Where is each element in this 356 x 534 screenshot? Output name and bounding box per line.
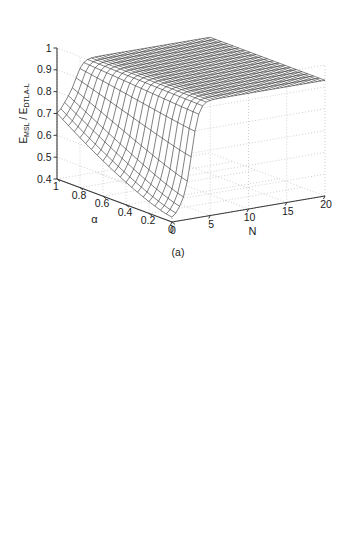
- panel-b: 00.20.40.60.8100.20.40.60.8105101520αNED…: [0, 267, 356, 534]
- surface-plot-a: 0.40.50.60.70.80.9100.20.40.60.810510152…: [0, 0, 356, 267]
- alpha-tick-label: 0.8: [72, 189, 87, 201]
- alpha-tick-label: 0.2: [141, 214, 156, 226]
- n-tick-label: 0: [170, 224, 176, 236]
- grid-line: [210, 153, 325, 196]
- grid-line: [172, 131, 325, 157]
- panel-label: (a): [172, 246, 185, 258]
- alpha-tick-label: 0.4: [118, 206, 133, 218]
- z-tick-label: 0.8: [37, 85, 52, 97]
- z-tick-label: 0.4: [37, 173, 52, 185]
- z-tick-label: 0.7: [37, 107, 52, 119]
- z-tick-label: 0.5: [37, 151, 52, 163]
- n-axis-label: N: [249, 225, 257, 237]
- grid-line: [172, 152, 325, 178]
- z-tick-label: 1: [46, 42, 52, 54]
- alpha-tick-label: 0.6: [95, 197, 110, 209]
- figure-container: 0.40.50.60.70.80.9100.20.40.60.810510152…: [0, 0, 356, 534]
- mesh-surface: [57, 37, 325, 217]
- alpha-axis-label: α: [91, 213, 98, 225]
- n-tick-label: 20: [320, 198, 332, 210]
- panel-a: 0.40.50.60.70.80.9100.20.40.60.810510152…: [0, 0, 356, 267]
- n-tick-label: 5: [208, 218, 214, 230]
- n-tick-label: 15: [282, 205, 294, 217]
- z-tick-label: 0.9: [37, 63, 52, 75]
- z-axis-label-text: EMSL / EDTLA-L: [18, 83, 30, 143]
- z-axis-label: EMSL / EDTLA-L: [18, 83, 30, 143]
- alpha-tick-label: 1: [53, 180, 59, 192]
- n-tick-label: 10: [244, 211, 256, 223]
- surface-plot-b: 00.20.40.60.8100.20.40.60.8105101520αNED…: [0, 267, 356, 534]
- z-tick-label: 0.6: [37, 129, 52, 141]
